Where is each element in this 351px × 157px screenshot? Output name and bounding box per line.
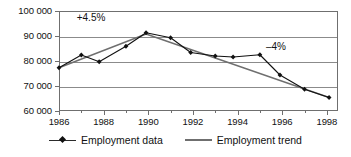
y-axis-tick-label: 60 000 [0,106,58,116]
x-axis-tick-mark [59,111,60,115]
legend-label-employment-data: Employment data [81,134,163,146]
y-axis-tick-label: 70 000 [0,81,58,91]
y-axis-tick-label: 90 000 [0,31,58,41]
annotation-decline-rate: –4% [266,41,286,52]
x-axis-tick-mark [282,111,283,115]
x-axis-minor-tick-mark [260,111,261,113]
legend-item-employment-data: Employment data [49,134,163,146]
legend-item-employment-trend: Employment trend [185,134,302,146]
x-axis-tick-label: 1994 [227,116,248,127]
series-layer [59,11,338,111]
employment-data-markers [57,30,332,100]
data-point-marker [79,53,84,58]
x-axis-minor-tick-mark [305,111,306,113]
employment-chart-figure: 100 00090 00080 00070 00060 000 19861988… [0,0,351,157]
x-axis-minor-tick-mark [171,111,172,113]
x-axis-tick-mark [148,111,149,115]
data-point-marker [302,87,307,92]
x-axis-tick-mark [104,111,105,115]
employment-trend-line [59,34,329,98]
data-point-marker [97,59,102,64]
legend-label-employment-trend: Employment trend [217,134,302,146]
x-axis-tick-mark [238,111,239,115]
x-axis-tick-label: 1992 [183,116,204,127]
x-axis-tick-label: 1988 [93,116,114,127]
x-axis-tick-label: 1996 [272,116,293,127]
x-axis-tick-label: 1990 [138,116,159,127]
annotation-growth-rate: +4.5% [77,12,106,23]
data-point-marker [231,55,236,60]
data-point-marker [327,95,332,100]
y-axis-tick-label: 80 000 [0,56,58,66]
x-axis-tick-label: 1998 [316,116,337,127]
x-axis-tick-label: 1986 [49,116,70,127]
employment-data-line [59,33,329,98]
legend-marker-line-icon [185,136,212,145]
x-axis-tick-mark [327,111,328,115]
x-axis-minor-tick-mark [81,111,82,113]
x-axis-minor-tick-mark [215,111,216,113]
legend-marker-diamond-icon [49,136,76,145]
x-axis-minor-tick-mark [126,111,127,113]
y-axis-tick-label: 100 000 [0,6,58,16]
x-axis-tick-mark [193,111,194,115]
chart-legend: Employment data Employment trend [0,134,351,146]
